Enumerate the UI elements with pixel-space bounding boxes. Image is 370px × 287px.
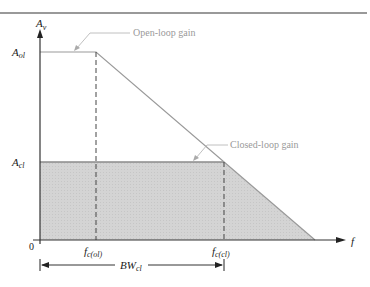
open-loop-leader-diag	[77, 33, 90, 48]
a-cl-label: Acl	[11, 156, 25, 170]
gain-bandwidth-diagram: Av f 0 Aol Acl fc(ol) fc(cl) Open-loop g…	[0, 0, 370, 287]
origin-label: 0	[29, 241, 34, 252]
bw-label: BWcl	[120, 259, 142, 273]
x-axis-label: f	[351, 235, 356, 247]
fc-cl-label: fc(cl)	[212, 245, 230, 259]
bw-left-arrow-icon	[41, 262, 49, 268]
fc-ol-label: fc(ol)	[84, 245, 103, 259]
closed-loop-leader-diag	[196, 145, 207, 158]
open-loop-gain-caption: Open-loop gain	[133, 27, 196, 38]
closed-loop-gain-caption: Closed-loop gain	[230, 139, 299, 150]
a-ol-label: Aol	[11, 46, 26, 60]
y-axis-label: Av	[35, 17, 47, 32]
closed-loop-shaded-region	[40, 162, 315, 240]
x-axis-arrow-icon	[336, 237, 346, 243]
bw-right-arrow-icon	[215, 262, 223, 268]
